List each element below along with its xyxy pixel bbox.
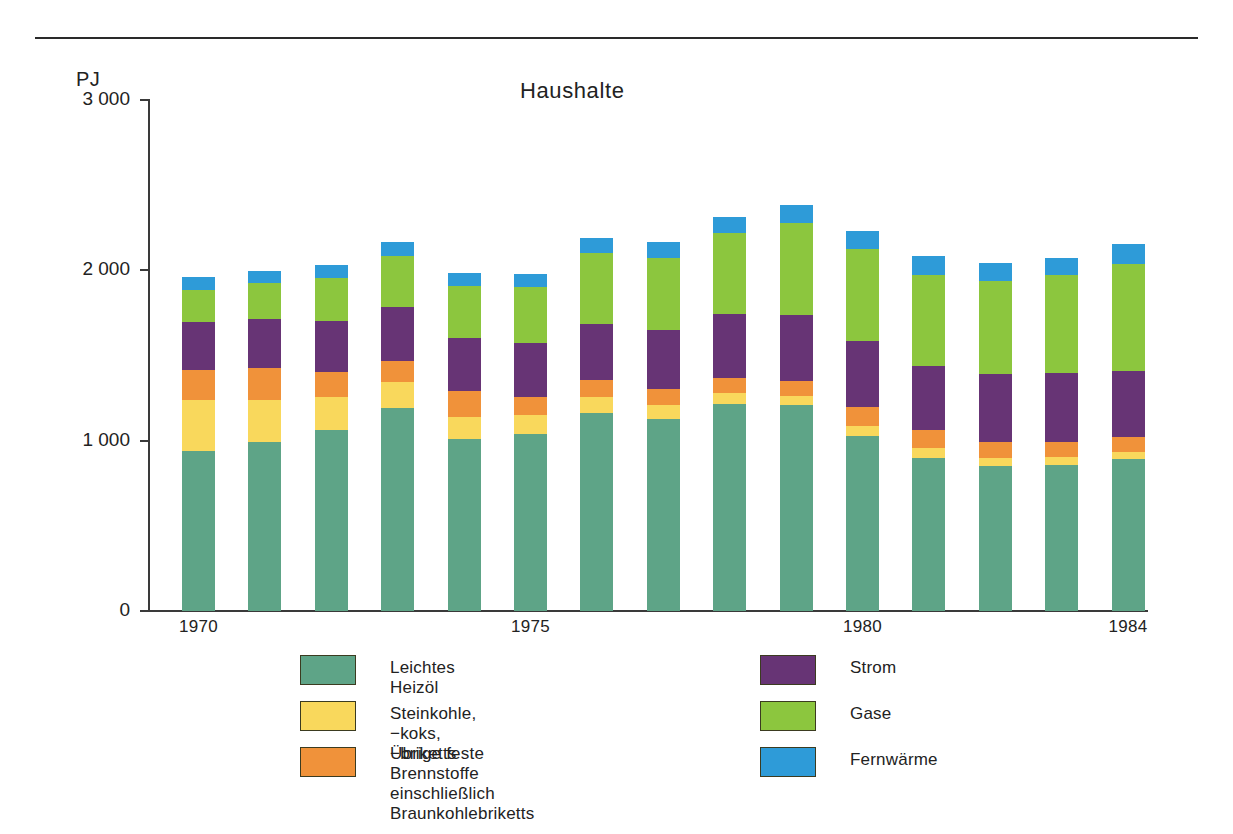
- bar-segment: [979, 466, 1012, 611]
- bar-segment: [1112, 452, 1145, 460]
- bar-segment: [381, 361, 414, 381]
- legend-label-heizoel: Leichtes Heizöl: [390, 658, 455, 698]
- bar-segment: [182, 322, 215, 370]
- bar-segment: [979, 281, 1012, 374]
- bar-segment: [514, 343, 547, 398]
- bar-segment: [448, 417, 481, 439]
- bar-segment: [979, 263, 1012, 282]
- x-tick-label: 1975: [491, 617, 571, 637]
- bar-segment: [713, 393, 746, 404]
- bar-segment: [1045, 258, 1078, 276]
- bar-segment: [647, 330, 680, 389]
- bar-segment: [580, 380, 613, 397]
- bar-segment: [448, 286, 481, 339]
- x-tick-label: 1984: [1088, 617, 1168, 637]
- bar-segment: [182, 400, 215, 451]
- bar-segment: [248, 271, 281, 283]
- bar-segment: [846, 407, 879, 427]
- bar-segment: [912, 458, 945, 611]
- bar-1980: [846, 0, 879, 611]
- bar-segment: [248, 319, 281, 368]
- chart-figure: PJ Haushalte 01 0002 0003 000 1970197519…: [0, 0, 1233, 834]
- bar-segment: [780, 205, 813, 223]
- bar-segment: [912, 275, 945, 366]
- bar-segment: [182, 277, 215, 290]
- bar-1974: [448, 0, 481, 611]
- bar-segment: [248, 368, 281, 400]
- bar-segment: [1045, 373, 1078, 441]
- bar-segment: [647, 389, 680, 405]
- bar-1973: [381, 0, 414, 611]
- legend-label-strom: Strom: [850, 658, 896, 678]
- bar-segment: [315, 278, 348, 321]
- bar-segment: [647, 258, 680, 330]
- bar-segment: [315, 321, 348, 372]
- bar-segment: [248, 442, 281, 611]
- bar-segment: [912, 448, 945, 457]
- bar-segment: [912, 430, 945, 448]
- bar-segment: [1112, 437, 1145, 451]
- bar-1982: [979, 0, 1012, 611]
- bar-segment: [514, 434, 547, 611]
- x-tick-label: 1970: [159, 617, 239, 637]
- bar-1975: [514, 0, 547, 611]
- bar-1979: [780, 0, 813, 611]
- bar-segment: [1112, 244, 1145, 264]
- bar-segment: [780, 223, 813, 316]
- bar-segment: [780, 315, 813, 381]
- bar-segment: [580, 238, 613, 253]
- legend-swatch-fernwaerme: [760, 747, 816, 777]
- bar-segment: [580, 253, 613, 324]
- bar-segment: [647, 419, 680, 611]
- bar-1972: [315, 0, 348, 611]
- bar-segment: [381, 307, 414, 362]
- bar-segment: [979, 458, 1012, 467]
- bar-segment: [580, 413, 613, 611]
- bar-segment: [647, 405, 680, 419]
- bar-segment: [713, 217, 746, 233]
- bar-segment: [315, 397, 348, 430]
- bar-segment: [979, 442, 1012, 458]
- legend-swatch-steinkohle: [300, 701, 356, 731]
- bar-1981: [912, 0, 945, 611]
- bar-segment: [381, 242, 414, 256]
- bar-segment: [182, 290, 215, 322]
- bar-segment: [1045, 457, 1078, 466]
- legend-label-uebrige: Übrige feste Brennstoffe einschließlich …: [390, 744, 534, 824]
- bar-segment: [381, 382, 414, 408]
- bar-segment: [315, 265, 348, 278]
- bar-segment: [182, 451, 215, 611]
- legend-swatch-gase: [760, 701, 816, 731]
- bar-1977: [647, 0, 680, 611]
- bar-segment: [448, 273, 481, 286]
- bar-segment: [647, 242, 680, 257]
- bar-segment: [448, 439, 481, 611]
- bar-1983: [1045, 0, 1078, 611]
- bar-segment: [448, 391, 481, 417]
- bar-segment: [713, 233, 746, 314]
- bar-segment: [448, 338, 481, 391]
- bar-segment: [1045, 465, 1078, 611]
- bar-1984: [1112, 0, 1145, 611]
- bar-segment: [912, 366, 945, 431]
- legend-label-gase: Gase: [850, 704, 891, 724]
- bar-segment: [580, 397, 613, 413]
- legend-swatch-heizoel: [300, 655, 356, 685]
- bar-segment: [580, 324, 613, 380]
- bar-segment: [1112, 264, 1145, 370]
- bar-segment: [713, 404, 746, 611]
- legend-swatch-strom: [760, 655, 816, 685]
- bar-segment: [713, 378, 746, 393]
- bar-segment: [1112, 459, 1145, 611]
- bar-segment: [381, 256, 414, 307]
- bar-segment: [780, 381, 813, 395]
- bar-segment: [1045, 275, 1078, 373]
- bar-segment: [846, 231, 879, 249]
- bar-segment: [315, 430, 348, 611]
- bar-segment: [846, 436, 879, 611]
- bar-segment: [248, 283, 281, 319]
- bar-segment: [1112, 371, 1145, 437]
- legend: Leichtes HeizölSteinkohle, −koks, −brike…: [300, 652, 1140, 802]
- bar-segment: [182, 370, 215, 400]
- bar-segment: [514, 274, 547, 288]
